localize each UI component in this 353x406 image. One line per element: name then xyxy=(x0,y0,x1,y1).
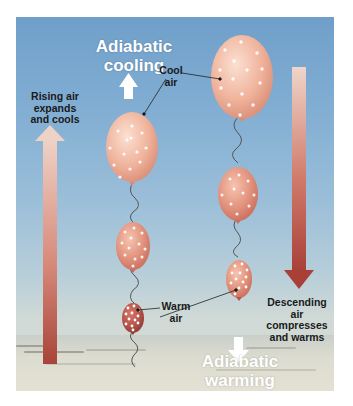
diagram-scene: Adiabatic cooling Rising air expands and… xyxy=(16,17,334,391)
label-line: Warm xyxy=(158,301,194,313)
caption-line: compresses xyxy=(259,320,334,332)
cool-air-label: Cool air xyxy=(156,65,186,88)
balloon-string xyxy=(130,331,137,367)
balloon-mid xyxy=(116,222,150,273)
title-line: Adiabatic xyxy=(94,38,174,57)
balloon-mid-right xyxy=(218,167,258,224)
cooling-up-arrow xyxy=(119,73,138,99)
label-line: air xyxy=(158,313,194,325)
balloon-string xyxy=(130,182,138,224)
balloon-warm-right xyxy=(226,260,252,301)
balloon-string xyxy=(233,217,240,257)
caption-line: Descending xyxy=(259,297,334,309)
warm-air-label: Warm air xyxy=(158,301,194,324)
caption-line: Rising air xyxy=(20,91,90,103)
title-line: Adiabatic xyxy=(198,353,282,372)
label-line: air xyxy=(156,77,186,89)
adiabatic-warming-title: Adiabatic warming xyxy=(198,353,282,390)
label-line: Cool xyxy=(156,65,186,77)
caption-line: and warms xyxy=(259,332,334,344)
balloon-warm-small xyxy=(122,303,144,335)
rising-air-arrow xyxy=(35,125,65,364)
caption-line: and cools xyxy=(20,114,90,126)
descending-air-arrow xyxy=(284,67,314,289)
balloon-string xyxy=(232,117,241,163)
title-line: warming xyxy=(198,372,282,391)
descending-air-caption: Descending air compresses and warms xyxy=(259,297,334,343)
balloon-cool-large xyxy=(106,112,158,186)
rising-air-caption: Rising air expands and cools xyxy=(20,91,90,126)
